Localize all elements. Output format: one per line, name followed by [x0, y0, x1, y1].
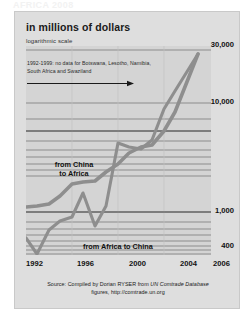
plot-area [26, 46, 211, 255]
y-axis-label-1000: 1,000 [215, 206, 234, 215]
series-label-china-to-africa: from China to Africa from Chinato Africa [43, 160, 105, 178]
y-axis-label-10000: 10,000 [211, 97, 234, 106]
data-gap-annotation: 1992-1999: no data for Botswana, Lesotho… [27, 60, 152, 75]
annotation-arrow-icon [27, 80, 137, 87]
x-axis-label-2000: 2000 [129, 259, 146, 268]
x-axis-label-1996: 1996 [77, 259, 94, 268]
x-axis-label-2006: 2006 [213, 259, 230, 268]
chart-svg [26, 46, 211, 255]
source-prefix: Source: Compiled by Dorian RYSER from [47, 281, 150, 287]
source-note: Source: Compiled by Dorian RYSER from UN… [15, 280, 240, 296]
x-axis-label-2004: 2004 [180, 259, 197, 268]
figure-panel: in millions of dollars logarithmic scale [14, 11, 240, 309]
y-axis-label-30000: 30,000 [211, 40, 234, 49]
cut-off-header-text: AFRICA 2008 [13, 0, 74, 10]
source-database-name: UN Comtrade Database [150, 281, 209, 287]
y-axis-label-400: 400 [221, 241, 234, 250]
cut-off-header: AFRICA 2008 [0, 0, 240, 11]
scale-note: logarithmic scale [26, 38, 72, 44]
x-axis-label-1992: 1992 [26, 259, 43, 268]
x-axis: 1992 1996 2000 2004 2006 [26, 259, 238, 271]
chart-page: AFRICA 2008 Sciences Po / CERI et Atelie… [0, 0, 240, 315]
figure-title: in millions of dollars [26, 21, 130, 33]
source-url-line: figures, http://comtrade.un.org [91, 289, 164, 295]
series-label-africa-to-china: from Africa to China [83, 242, 153, 251]
